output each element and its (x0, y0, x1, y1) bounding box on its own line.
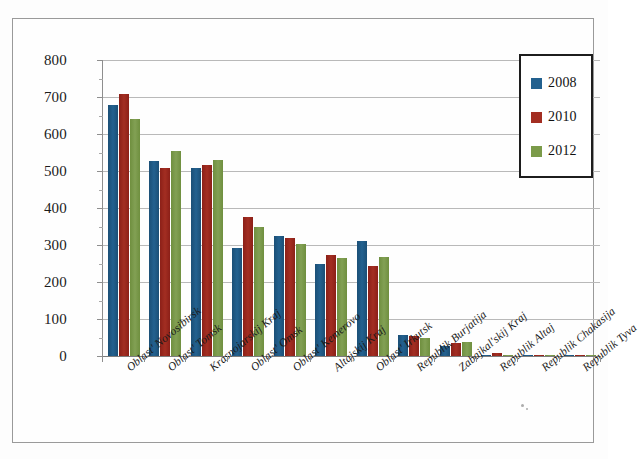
bar-group (228, 60, 270, 356)
legend-item-2010: 2010 (531, 100, 591, 134)
x-tick (517, 356, 518, 362)
y-axis-label-300: 300 (44, 237, 67, 254)
x-tick (268, 356, 269, 362)
chart-legend: 2008 2010 2012 (519, 54, 593, 178)
bar-group (352, 60, 394, 356)
legend-label-2012: 2012 (548, 143, 577, 159)
bar-group (103, 60, 145, 356)
legend-swatch-2008-icon (531, 78, 542, 89)
x-tick (600, 356, 601, 362)
bar-2010 (492, 353, 502, 356)
scan-artifact (521, 404, 524, 407)
x-tick (227, 356, 228, 362)
x-tick (476, 356, 477, 362)
bar-2012 (130, 119, 140, 356)
x-tick (144, 356, 145, 362)
legend-label-2008: 2008 (548, 75, 577, 91)
x-tick (185, 356, 186, 362)
legend-item-2012: 2012 (531, 134, 591, 168)
bar-2010 (575, 355, 585, 356)
legend-item-2008: 2008 (531, 66, 591, 100)
bar-group (435, 60, 477, 356)
y-axis-label-400: 400 (44, 200, 67, 217)
x-tick (434, 356, 435, 362)
y-axis-label-200: 200 (44, 274, 67, 291)
bar-2008 (149, 161, 159, 356)
bar-group (311, 60, 353, 356)
bar-group (394, 60, 436, 356)
y-axis-label-700: 700 (44, 89, 67, 106)
legend-swatch-2012-icon (531, 146, 542, 157)
x-tick (102, 356, 103, 362)
bar-2010 (119, 94, 129, 356)
legend-swatch-2010-icon (531, 112, 542, 123)
bar-2012 (296, 244, 306, 356)
y-axis-label-800: 800 (44, 52, 67, 69)
bar-2010 (534, 355, 544, 356)
y-axis-label-600: 600 (44, 126, 67, 143)
y-axis-label-500: 500 (44, 163, 67, 180)
chart-border-frame: 0100200300400500600700800 Oblast' Novosi… (12, 18, 594, 443)
legend-label-2010: 2010 (548, 109, 577, 125)
y-axis-label-100: 100 (44, 311, 67, 328)
bar-2008 (108, 105, 118, 356)
y-axis-label-0: 0 (59, 348, 67, 365)
x-tick (393, 356, 394, 362)
x-tick (351, 356, 352, 362)
bar-group (145, 60, 187, 356)
x-tick (310, 356, 311, 362)
x-tick (559, 356, 560, 362)
bar-2012 (337, 258, 347, 356)
bar-2008 (191, 168, 201, 356)
bar-2012 (379, 257, 389, 356)
scan-artifact (526, 408, 528, 410)
